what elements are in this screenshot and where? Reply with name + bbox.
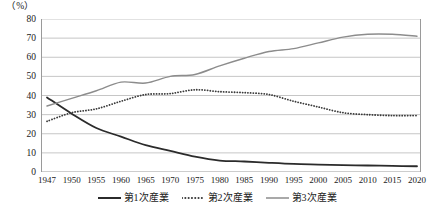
y-tick-label: 80 — [27, 14, 37, 24]
industry-share-line-chart: （%） 80706050403020100 194719501955196019… — [0, 0, 434, 206]
x-tick-label: 1955 — [87, 175, 105, 186]
legend-label: 第3次産業 — [292, 192, 337, 204]
x-tick-label: 2000 — [309, 175, 327, 186]
plot-area — [41, 19, 421, 172]
x-tick-label: 1947 — [38, 175, 56, 186]
y-tick-label: 50 — [27, 71, 37, 81]
legend-label: 第1次産業 — [124, 192, 169, 204]
legend-swatch-icon — [98, 194, 121, 202]
x-tick-label: 2005 — [334, 175, 352, 186]
chart-legend: 第1次産業第2次産業第3次産業 — [0, 189, 434, 206]
x-tick-label: 2015 — [383, 175, 401, 186]
y-tick-label: 70 — [27, 33, 37, 43]
x-tick-label: 2010 — [359, 175, 377, 186]
x-tick-label: 1980 — [211, 175, 229, 186]
legend-swatch-icon — [266, 194, 289, 202]
x-tick-label: 1960 — [112, 175, 130, 186]
legend-item-3[interactable]: 第3次産業 — [266, 192, 337, 204]
plot-canvas — [41, 19, 421, 172]
legend-swatch-icon — [182, 194, 205, 202]
x-tick-label: 1975 — [186, 175, 204, 186]
x-tick-label: 1990 — [260, 175, 278, 186]
x-tick-label: 1965 — [137, 175, 155, 186]
legend-item-2[interactable]: 第2次産業 — [182, 192, 253, 204]
legend-item-1[interactable]: 第1次産業 — [98, 192, 169, 204]
x-tick-label: 2020 — [408, 175, 426, 186]
x-tick-label: 1950 — [63, 175, 81, 186]
y-tick-label: 30 — [27, 110, 37, 120]
y-tick-label: 60 — [27, 52, 37, 62]
x-tick-label: 1985 — [235, 175, 253, 186]
y-tick-label: 10 — [27, 148, 37, 158]
x-tick-label: 1970 — [161, 175, 179, 186]
x-axis-tick-labels: 1947195019551960196519701975198019851990… — [0, 175, 434, 189]
series-line-2 — [47, 90, 417, 122]
x-tick-label: 1995 — [285, 175, 303, 186]
y-tick-label: 40 — [27, 91, 37, 101]
y-tick-label: 20 — [27, 129, 37, 139]
legend-label: 第2次産業 — [208, 192, 253, 204]
